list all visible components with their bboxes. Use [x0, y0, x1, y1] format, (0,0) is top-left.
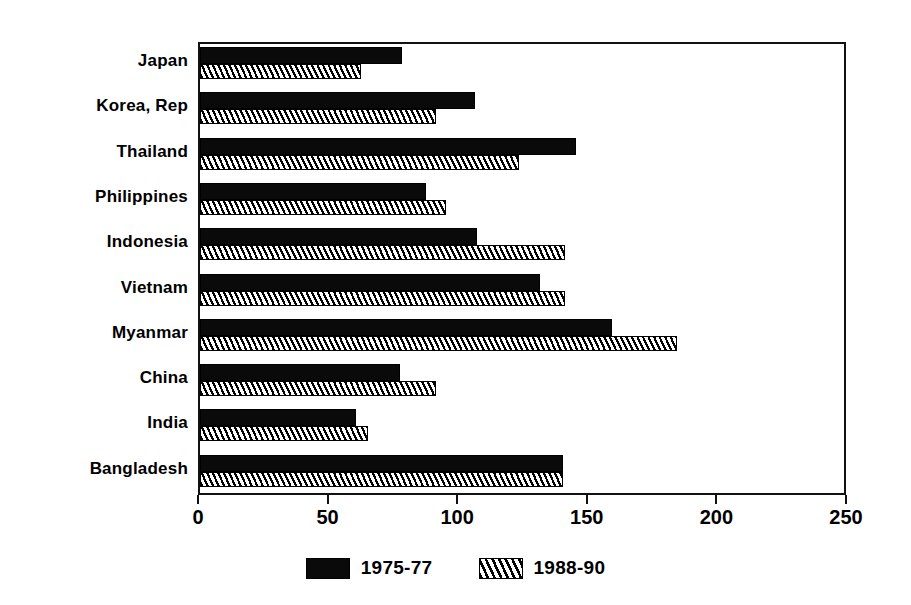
x-axis-ticks	[198, 495, 846, 505]
bar-1975-77	[200, 364, 400, 381]
bar-1975-77	[200, 409, 356, 426]
x-tick-50	[327, 495, 329, 504]
bar-1988-90	[200, 200, 446, 215]
bar-1988-90	[200, 426, 368, 441]
category-label-myanmar: Myanmar	[0, 323, 188, 342]
bar-1988-90	[200, 381, 436, 396]
bar-1988-90	[200, 291, 565, 306]
bar-group	[200, 135, 844, 180]
x-tick-150	[586, 495, 588, 504]
bar-1975-77	[200, 92, 475, 109]
category-label-bangladesh: Bangladesh	[0, 459, 188, 478]
legend-swatch-1988-90	[479, 558, 523, 579]
bar-group	[200, 452, 844, 497]
bar-1988-90	[200, 155, 519, 170]
x-tick-label-50: 50	[316, 506, 338, 529]
category-label-thailand: Thailand	[0, 142, 188, 161]
category-label-vietnam: Vietnam	[0, 278, 188, 297]
bar-group	[200, 361, 844, 406]
bar-group	[200, 225, 844, 270]
bar-1975-77	[200, 47, 402, 64]
category-label-philippines: Philippines	[0, 187, 188, 206]
legend-label-1975-77: 1975-77	[361, 557, 433, 579]
x-tick-label-150: 150	[570, 506, 603, 529]
bar-group	[200, 44, 844, 89]
category-label-india: India	[0, 413, 188, 432]
category-label-korea-rep: Korea, Rep	[0, 96, 188, 115]
x-tick-label-100: 100	[441, 506, 474, 529]
bar-1975-77	[200, 183, 426, 200]
bar-1988-90	[200, 109, 436, 124]
category-axis-labels: JapanKorea, RepThailandPhilippinesIndone…	[0, 42, 188, 495]
bar-1975-77	[200, 455, 563, 472]
legend-label-1988-90: 1988-90	[534, 557, 606, 579]
bar-chart-figure: JapanKorea, RepThailandPhilippinesIndone…	[0, 0, 911, 605]
bar-group	[200, 180, 844, 225]
category-label-china: China	[0, 368, 188, 387]
x-tick-200	[715, 495, 717, 504]
category-label-japan: Japan	[0, 51, 188, 70]
legend-item-1975-77: 1975-77	[306, 557, 433, 579]
x-axis-tick-labels: 050100150200250	[0, 506, 911, 536]
x-tick-100	[456, 495, 458, 504]
bar-group	[200, 89, 844, 134]
bar-1988-90	[200, 245, 565, 260]
x-tick-label-0: 0	[192, 506, 203, 529]
x-tick-0	[197, 495, 199, 504]
bar-1975-77	[200, 274, 540, 291]
bar-1988-90	[200, 336, 677, 351]
bar-1975-77	[200, 319, 612, 336]
bar-group	[200, 406, 844, 451]
plot-area	[198, 42, 846, 495]
legend-item-1988-90: 1988-90	[479, 557, 606, 579]
bar-1975-77	[200, 138, 576, 155]
bar-1975-77	[200, 228, 477, 245]
bar-1988-90	[200, 64, 361, 79]
bar-1988-90	[200, 472, 563, 487]
bar-group	[200, 316, 844, 361]
legend-swatch-1975-77	[306, 558, 350, 579]
category-label-indonesia: Indonesia	[0, 232, 188, 251]
chart-legend: 1975-771988-90	[0, 550, 911, 586]
bar-group	[200, 271, 844, 316]
x-tick-250	[845, 495, 847, 504]
x-tick-label-200: 200	[700, 506, 733, 529]
x-tick-label-250: 250	[829, 506, 862, 529]
